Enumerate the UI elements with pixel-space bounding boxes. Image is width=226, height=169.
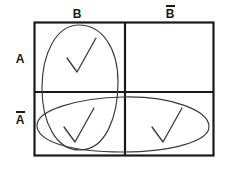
horizontal-ellipse	[37, 97, 209, 152]
checkmark-not-a-and-not-b	[152, 108, 182, 142]
diagram-canvas	[0, 0, 226, 169]
column-header-b-text: B	[62, 8, 92, 20]
karnaugh-venn-diagram: B B A A	[0, 0, 226, 169]
vertical-ellipse-stroke	[42, 25, 118, 150]
row-header-a-text: A	[10, 53, 30, 65]
row-header-a: A	[10, 50, 30, 65]
column-header-not-b: B	[155, 5, 185, 20]
column-header-not-b-text: B	[155, 8, 185, 20]
vertical-ellipse	[42, 25, 118, 150]
checkmark-a-and-b	[67, 38, 96, 72]
grid-group	[35, 23, 214, 156]
checkmark-a-and-b-stroke	[67, 38, 96, 72]
column-header-b: B	[62, 5, 92, 20]
checkmark-not-a-and-b-stroke	[64, 108, 94, 142]
row-header-not-a: A	[10, 111, 30, 126]
horizontal-ellipse-stroke	[37, 97, 209, 152]
checkmark-not-a-and-not-b-stroke	[152, 108, 182, 142]
cell-a-and-not-b	[125, 23, 213, 92]
cell-a-and-b	[35, 23, 125, 92]
checkmark-not-a-and-b	[64, 108, 94, 142]
row-header-not-a-text: A	[10, 114, 30, 126]
